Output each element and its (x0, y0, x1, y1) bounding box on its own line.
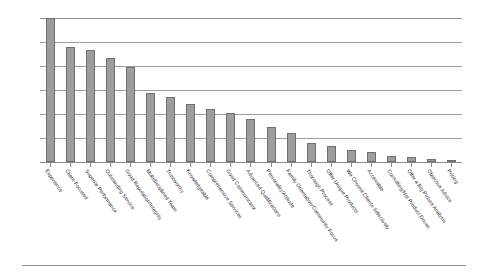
axis-tick (431, 162, 432, 167)
axis-tick (451, 162, 452, 167)
axis-tick (190, 162, 191, 167)
bar (246, 119, 255, 162)
label-slot: Thorough Process (301, 168, 321, 263)
label-slot: Good Communicator (221, 168, 241, 263)
bar-slot (281, 18, 301, 162)
label-slot: Trustworthy (161, 168, 181, 263)
bar-slot (241, 18, 261, 162)
bar (307, 143, 316, 162)
axis-tick (391, 162, 392, 167)
bar-slot (161, 18, 181, 162)
bar (367, 152, 376, 162)
tick-slot (422, 162, 442, 167)
label-slot: Multidisciplined Team (140, 168, 160, 263)
bar (166, 97, 175, 162)
bar-slot (362, 18, 382, 162)
tick-slot (221, 162, 241, 167)
bar (126, 67, 135, 162)
category-label: Pricing (446, 168, 460, 185)
axis-tick (90, 162, 91, 167)
axis-tick (230, 162, 231, 167)
axis-tick (331, 162, 332, 167)
tick-slot (321, 162, 341, 167)
tick-slot (241, 162, 261, 167)
label-slot: Superior Performance (80, 168, 100, 263)
axis-tick (291, 162, 292, 167)
axis-tick (311, 162, 312, 167)
tick-slot (281, 162, 301, 167)
bar-slot (422, 18, 442, 162)
footer-divider (22, 265, 466, 266)
bar-chart-figure: ExperienceClient-FocusedSuperior Perform… (0, 0, 488, 278)
bar (186, 104, 195, 162)
bar (267, 127, 276, 162)
tick-slot (402, 162, 422, 167)
bar-slot (221, 18, 241, 162)
bar (146, 93, 155, 162)
axis-tick (351, 162, 352, 167)
label-slot: Pricing (442, 168, 462, 263)
tick-slot (40, 162, 60, 167)
label-slot: Personality/Attitude (261, 168, 281, 263)
bar-slot (60, 18, 80, 162)
label-slot: Advanced Qualifications (241, 168, 261, 263)
x-axis-ticks-group (40, 162, 462, 167)
bar-slot (181, 18, 201, 162)
tick-slot (341, 162, 361, 167)
bar (46, 18, 55, 162)
bar-slot (261, 18, 281, 162)
axis-tick (150, 162, 151, 167)
tick-slot (161, 162, 181, 167)
tick-slot (120, 162, 140, 167)
label-slot: Client-Focused (60, 168, 80, 263)
plot-area (40, 18, 462, 162)
label-slot: We Choose Clients Selectively (341, 168, 361, 263)
tick-slot (201, 162, 221, 167)
axis-tick (371, 162, 372, 167)
x-axis-labels-group: ExperienceClient-FocusedSuperior Perform… (40, 168, 462, 263)
bar-slot (80, 18, 100, 162)
axis-tick (130, 162, 131, 167)
label-slot: Objective Advice (422, 168, 442, 263)
label-slot: Family Orientation/Community Focus (281, 168, 301, 263)
tick-slot (382, 162, 402, 167)
label-slot: Good Reputation/Integrity (120, 168, 140, 263)
bar-slot (321, 18, 341, 162)
axis-tick (271, 162, 272, 167)
label-slot: Knowledgeable (181, 168, 201, 263)
tick-slot (261, 162, 281, 167)
bar (66, 47, 75, 162)
tick-slot (442, 162, 462, 167)
bar (226, 113, 235, 162)
tick-slot (362, 162, 382, 167)
label-slot: Comprehensive Services (201, 168, 221, 263)
tick-slot (301, 162, 321, 167)
axis-tick (210, 162, 211, 167)
bar-slot (120, 18, 140, 162)
label-slot: Offer Unique Products (321, 168, 341, 263)
bar (347, 150, 356, 162)
bar-slot (100, 18, 120, 162)
bar (287, 133, 296, 162)
axis-tick (170, 162, 171, 167)
bars-group (40, 18, 462, 162)
axis-tick (70, 162, 71, 167)
axis-tick (411, 162, 412, 167)
tick-slot (140, 162, 160, 167)
label-slot: Offer a Big Picture Analysis (402, 168, 422, 263)
bar (206, 109, 215, 162)
axis-tick (50, 162, 51, 167)
label-slot: Experience (40, 168, 60, 263)
label-slot: Consulting/Not Product Driven (382, 168, 402, 263)
bar-slot (442, 18, 462, 162)
axis-tick (250, 162, 251, 167)
bar-slot (402, 18, 422, 162)
axis-tick (110, 162, 111, 167)
label-slot: Outstanding Service (100, 168, 120, 263)
bar-slot (382, 18, 402, 162)
bar-slot (341, 18, 361, 162)
bar (86, 50, 95, 162)
tick-slot (100, 162, 120, 167)
bar (327, 146, 336, 162)
bar-slot (140, 18, 160, 162)
